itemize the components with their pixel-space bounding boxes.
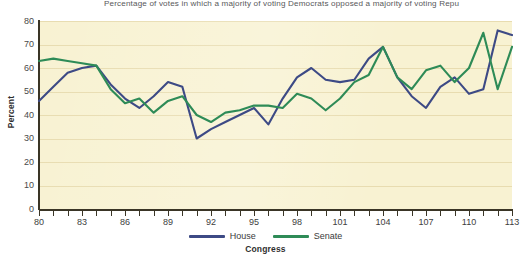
x-axis-tick <box>182 211 183 216</box>
x-axis-tick-label: 83 <box>67 217 97 227</box>
x-axis-tick-label: 92 <box>196 217 226 227</box>
x-axis-tick <box>211 211 212 216</box>
x-axis-tick-label: 104 <box>368 217 398 227</box>
series-lines <box>39 21 512 209</box>
x-axis-tick-label: 98 <box>282 217 312 227</box>
x-axis-tick <box>139 211 140 216</box>
x-axis-tick <box>297 211 298 216</box>
x-axis-tick-label: 80 <box>24 217 54 227</box>
y-axis-tick-label: 60 <box>4 64 34 73</box>
legend-label: House <box>230 231 256 241</box>
x-axis-tick <box>197 211 198 216</box>
x-axis-tick <box>326 211 327 216</box>
x-axis-tick <box>311 211 312 216</box>
x-axis-tick <box>469 211 470 216</box>
x-axis-tick-label: 107 <box>411 217 441 227</box>
y-axis-tick-label: 10 <box>4 181 34 190</box>
legend-swatch-icon <box>189 235 225 238</box>
y-axis-tick-label: 70 <box>4 40 34 49</box>
x-axis-tick <box>168 211 169 216</box>
x-axis-tick <box>440 211 441 216</box>
x-axis-tick <box>111 211 112 216</box>
x-axis-tick-label: 95 <box>239 217 269 227</box>
x-axis-tick <box>268 211 269 216</box>
x-axis-tick-label: 113 <box>497 217 527 227</box>
x-axis-tick <box>53 211 54 216</box>
x-axis-tick <box>397 211 398 216</box>
chart-legend: HouseSenate <box>0 231 531 241</box>
x-axis-tick <box>254 211 255 216</box>
x-axis-tick <box>82 211 83 216</box>
x-axis-tick <box>369 211 370 216</box>
x-axis-tick <box>512 211 513 216</box>
chart-title: Percentage of votes in which a majority … <box>104 0 531 9</box>
x-axis-tick <box>426 211 427 216</box>
x-axis-tick-label: 110 <box>454 217 484 227</box>
legend-label: Senate <box>314 231 343 241</box>
x-axis-tick <box>483 211 484 216</box>
x-axis-tick-label: 89 <box>153 217 183 227</box>
x-axis-tick <box>383 211 384 216</box>
series-line-house <box>39 30 512 138</box>
x-axis-tick <box>340 211 341 216</box>
x-axis-tick <box>283 211 284 216</box>
x-axis-title: Congress <box>0 244 531 254</box>
x-axis-tick <box>240 211 241 216</box>
legend-swatch-icon <box>273 235 309 238</box>
x-axis-tick-label: 86 <box>110 217 140 227</box>
x-axis-tick <box>96 211 97 216</box>
y-axis-title: Percent <box>6 82 16 142</box>
x-axis-tick <box>125 211 126 216</box>
x-axis-tick <box>68 211 69 216</box>
legend-item-house[interactable]: House <box>189 231 256 241</box>
x-axis-tick <box>354 211 355 216</box>
x-axis-tick <box>412 211 413 216</box>
y-axis-tick-label: 0 <box>4 205 34 214</box>
x-axis-tick <box>225 211 226 216</box>
x-axis-tick <box>39 211 40 216</box>
x-axis-tick-label: 101 <box>325 217 355 227</box>
y-axis-tick-label: 80 <box>4 17 34 26</box>
series-line-senate <box>39 33 512 122</box>
x-axis-tick <box>455 211 456 216</box>
x-axis-tick <box>154 211 155 216</box>
legend-item-senate[interactable]: Senate <box>273 231 343 241</box>
line-chart: Percentage of votes in which a majority … <box>0 0 531 267</box>
x-axis-tick <box>498 211 499 216</box>
y-axis-tick-label: 20 <box>4 158 34 167</box>
